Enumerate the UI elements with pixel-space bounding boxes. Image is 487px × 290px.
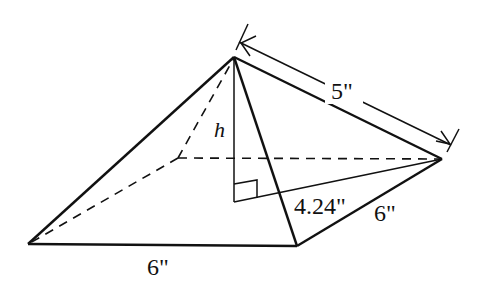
hidden-left-edge (30, 158, 178, 243)
base-front-edge (28, 244, 297, 246)
half-diagonal-label: 4.24" (294, 193, 346, 219)
lateral-edge-left (28, 57, 234, 244)
hidden-back-edge (178, 158, 442, 159)
slant-edge-label: 5" (331, 78, 353, 104)
height-label: h (214, 117, 225, 142)
right-angle-marker (234, 180, 257, 198)
arrowhead-right-icon (436, 131, 450, 144)
dimension-tick-right (447, 129, 459, 152)
base-side-front-label: 6" (147, 254, 169, 280)
lateral-edge-front (234, 57, 297, 246)
pyramid-diagram: 5" h 4.24" 6" 6" (0, 0, 487, 290)
base-side-right-label: 6" (374, 200, 396, 226)
lateral-edge-right (234, 57, 442, 159)
hidden-lateral-edge (178, 58, 234, 158)
